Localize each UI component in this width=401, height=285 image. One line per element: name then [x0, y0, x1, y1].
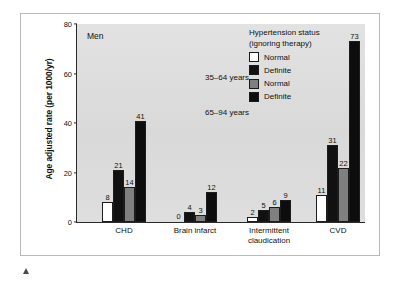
- bar-value-label: 21: [114, 162, 122, 170]
- bar-value-label: 3: [198, 207, 202, 215]
- footnote-triangle-icon: [23, 268, 29, 274]
- bar-3-3: 73: [349, 41, 360, 222]
- bar-group-brain-infarct: 04312Brain infarct: [173, 24, 217, 222]
- bar-0-2: 14: [124, 187, 135, 222]
- bar-2-3: 9: [280, 200, 291, 222]
- bar-value-label: 0: [176, 213, 180, 221]
- bar-2-0: 2: [247, 217, 258, 222]
- bar-value-label: 11: [318, 187, 326, 195]
- bar-0-0: 8: [102, 202, 113, 222]
- figure-frame: Age adjusted rate (per 1000/yr) Men Hype…: [20, 13, 380, 256]
- bar-1-1: 4: [184, 212, 195, 222]
- x-axis-label-line: Brain infarct: [174, 226, 217, 236]
- bar-3-1: 31: [327, 145, 338, 222]
- bar-0-3: 41: [135, 121, 146, 222]
- y-tick-mark-20: [74, 172, 78, 173]
- y-tick-mark-80: [74, 23, 78, 24]
- bar-value-label: 2: [250, 209, 254, 217]
- bar-value-label: 9: [283, 192, 287, 200]
- bar-value-label: 6: [272, 199, 276, 207]
- x-axis-label-0: CHD: [115, 226, 132, 236]
- x-axis-label-line: claudication: [248, 236, 290, 246]
- x-axis-label-3: CVD: [330, 226, 347, 236]
- bar-value-label: 5: [261, 202, 265, 210]
- bar-value-label: 22: [339, 160, 347, 168]
- bar-group-cvd: 11312273CVD: [316, 24, 360, 222]
- y-tick-mark-0: [74, 221, 78, 222]
- bar-value-label: 8: [105, 194, 109, 202]
- bar-0-1: 21: [113, 170, 124, 222]
- bar-3-0: 11: [316, 195, 327, 222]
- bar-value-label: 14: [125, 179, 133, 187]
- bar-1-3: 12: [206, 192, 217, 222]
- bar-value-label: 4: [187, 204, 191, 212]
- x-axis-label-2: Intermittentclaudication: [248, 226, 290, 245]
- bar-1-2: 3: [195, 215, 206, 222]
- bar-group-chd: 8211441CHD: [102, 24, 146, 222]
- x-axis-label-line: CHD: [115, 226, 132, 236]
- bar-3-2: 22: [338, 168, 349, 222]
- bar-value-label: 73: [350, 33, 358, 41]
- bar-value-label: 12: [207, 184, 215, 192]
- y-tick-mark-60: [74, 73, 78, 74]
- y-axis-title: Age adjusted rate (per 1000/yr): [44, 34, 54, 204]
- x-axis-label-line: CVD: [330, 226, 347, 236]
- plot-area: Men Hypertension status (ignoring therap…: [76, 24, 365, 223]
- y-tick-mark-40: [74, 122, 78, 123]
- x-axis-label-line: Intermittent: [248, 226, 290, 236]
- bar-group-intermittent-claudication: 2569Intermittentclaudication: [247, 24, 291, 222]
- bar-value-label: 31: [328, 137, 336, 145]
- bar-2-2: 6: [269, 207, 280, 222]
- bar-2-1: 5: [258, 210, 269, 222]
- x-axis-label-1: Brain infarct: [174, 226, 217, 236]
- bar-value-label: 41: [136, 113, 144, 121]
